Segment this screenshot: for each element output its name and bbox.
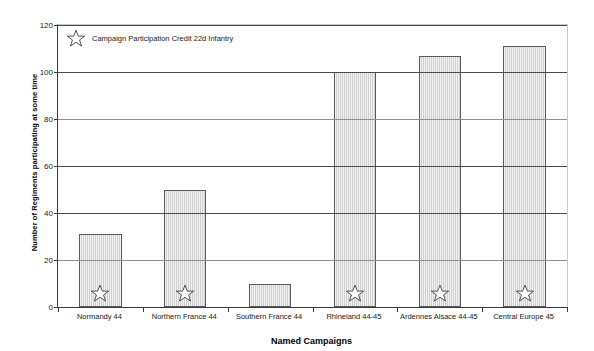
bar[interactable] xyxy=(334,72,376,307)
y-axis-tick-mark xyxy=(54,213,58,214)
star-icon xyxy=(430,284,450,303)
bar[interactable] xyxy=(249,284,291,308)
chart-legend: Campaign Participation Credit 22d Infant… xyxy=(66,29,233,48)
y-axis-tick-mark xyxy=(54,25,58,26)
y-axis-tick-mark xyxy=(54,260,58,261)
x-axis-tick-mark xyxy=(567,307,568,312)
gridline xyxy=(58,213,567,214)
x-axis-tick-label: Central Europe 45 xyxy=(481,312,566,322)
star-icon xyxy=(515,284,535,303)
bar[interactable] xyxy=(419,56,461,307)
star-icon xyxy=(90,284,110,303)
star-icon xyxy=(345,284,365,303)
y-axis-tick-mark xyxy=(54,119,58,120)
star-icon xyxy=(66,29,86,48)
y-axis-title: Number of Regiments participating at som… xyxy=(30,43,39,283)
x-axis-tick-label: Rhineland 44-45 xyxy=(312,312,397,322)
gridline xyxy=(58,260,567,261)
x-axis-tick-label: Southern France 44 xyxy=(227,312,312,322)
legend-label: Campaign Participation Credit 22d Infant… xyxy=(92,34,233,43)
x-axis-tick-label: Northern France 44 xyxy=(142,312,227,322)
x-axis-tick-label: Normandy 44 xyxy=(57,312,142,322)
gridline xyxy=(58,166,567,167)
y-axis-tick-mark xyxy=(54,166,58,167)
gridline xyxy=(58,72,567,73)
gridline xyxy=(58,119,567,120)
x-axis-tick-label: Ardennes Alsace 44-45 xyxy=(396,312,481,322)
plot-area: Campaign Participation Credit 22d Infant… xyxy=(57,24,568,308)
bar-chart: Number of Regiments participating at som… xyxy=(0,0,594,351)
x-axis-title: Named Campaigns xyxy=(57,336,566,346)
gridline xyxy=(58,25,567,26)
bar[interactable] xyxy=(503,46,545,307)
y-axis-tick-mark xyxy=(54,72,58,73)
star-icon xyxy=(175,284,195,303)
